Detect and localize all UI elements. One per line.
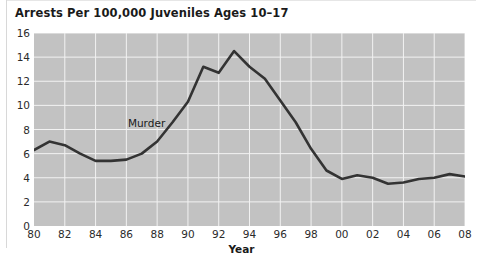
x-axis-tick-label: 86 (113, 229, 139, 240)
y-axis-tick-label: 8 (4, 125, 30, 135)
x-axis-tick-label: 80 (21, 229, 47, 240)
y-axis-tick-label: 14 (4, 52, 30, 62)
x-axis-tick-label: 88 (144, 229, 170, 240)
y-axis-tick-label: 16 (4, 28, 30, 38)
y-axis-tick-label: 6 (4, 149, 30, 159)
x-axis-tick-label: 96 (267, 229, 293, 240)
chart-figure: Arrests Per 100,000 Juveniles Ages 10–17… (0, 0, 483, 264)
figure-frame-top (6, 0, 476, 1)
x-axis-tick-label: 82 (52, 229, 78, 240)
y-axis-tick-label: 10 (4, 100, 30, 110)
y-axis-tick-label: 2 (4, 197, 30, 207)
x-axis-tick-label: 00 (329, 229, 355, 240)
line-chart-svg (34, 33, 465, 226)
plot-area (34, 33, 465, 226)
x-axis-tick-label: 90 (175, 229, 201, 240)
series-annotation-murder: Murder (128, 117, 165, 129)
x-axis-tick-label: 98 (298, 229, 324, 240)
y-axis-tick-label: 12 (4, 76, 30, 86)
x-axis-tick-label: 06 (421, 229, 447, 240)
x-axis-tick-label: 04 (390, 229, 416, 240)
y-axis-tick-label: 4 (4, 173, 30, 183)
x-axis-tick-label: 02 (360, 229, 386, 240)
x-axis-tick-label: 94 (237, 229, 263, 240)
x-axis-tick-label: 92 (206, 229, 232, 240)
x-axis-tick-label: 84 (83, 229, 109, 240)
chart-title: Arrests Per 100,000 Juveniles Ages 10–17 (15, 6, 289, 20)
x-axis-title: Year (0, 243, 483, 255)
x-axis-tick-label: 08 (452, 229, 478, 240)
